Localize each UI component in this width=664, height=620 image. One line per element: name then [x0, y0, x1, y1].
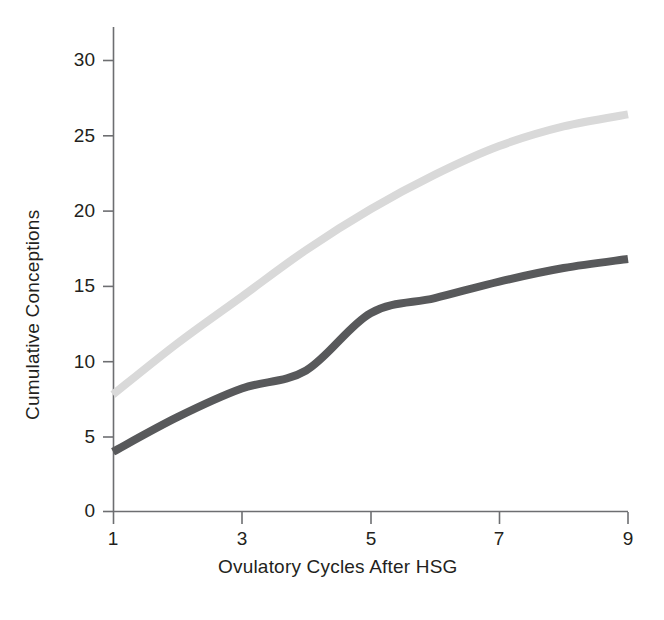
y-tick-label: 30	[74, 49, 95, 71]
chart-figure: 30 25 20 15 10 5 0 1 3 5 7 9 Cumulative …	[0, 0, 664, 620]
y-tick-label: 20	[74, 200, 95, 222]
y-axis-title: Cumulative Conceptions	[22, 210, 44, 420]
x-tick-label: 9	[623, 528, 634, 550]
x-tick-label: 7	[494, 528, 505, 550]
chart-line-dark-curve	[113, 259, 628, 452]
y-tick-label: 0	[84, 500, 95, 522]
y-tick-label: 5	[84, 426, 95, 448]
chart-series-layer	[113, 114, 628, 451]
x-axis-title: Ovulatory Cycles After HSG	[218, 556, 458, 578]
x-axis-ticks	[114, 512, 629, 524]
chart-plot-area	[0, 0, 664, 620]
x-tick-label: 3	[237, 528, 248, 550]
chart-line-light-curve	[113, 114, 628, 394]
y-tick-label: 10	[74, 351, 95, 373]
x-tick-label: 1	[108, 528, 119, 550]
y-tick-label: 15	[74, 275, 95, 297]
x-tick-label: 5	[366, 528, 377, 550]
y-tick-label: 25	[74, 125, 95, 147]
y-axis-ticks	[103, 61, 113, 512]
